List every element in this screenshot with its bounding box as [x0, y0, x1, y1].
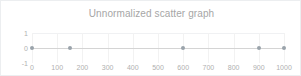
- x-tick-label: 200: [77, 64, 89, 72]
- y-tick-label: 1: [24, 30, 28, 37]
- scatter-point: [30, 46, 34, 50]
- x-axis-tick-labels: 01002003004005006007008009001000: [32, 64, 284, 75]
- x-tick-label: 1000: [276, 64, 292, 72]
- scatter-point: [257, 46, 261, 50]
- x-tick-label: 600: [177, 64, 189, 72]
- scatter-point: [181, 46, 185, 50]
- x-tick-label: 800: [228, 64, 240, 72]
- x-tick-label: 100: [51, 64, 63, 72]
- x-tick-label: 300: [102, 64, 114, 72]
- plot-area: [32, 33, 284, 63]
- y-tick-label: 0: [24, 45, 28, 52]
- scatter-point: [68, 46, 72, 50]
- chart-title: Unnormalized scatter graph: [1, 8, 301, 19]
- y-axis-tick-labels: 10-1: [13, 33, 28, 63]
- x-tick-label: 400: [127, 64, 139, 72]
- chart-card: Unnormalized scatter graph 10-1 01002003…: [0, 0, 301, 76]
- x-tick-label: 700: [203, 64, 215, 72]
- x-tick-label: 500: [152, 64, 164, 72]
- scatter-point: [282, 46, 286, 50]
- x-tick-label: 900: [253, 64, 265, 72]
- x-tick-label: 0: [30, 64, 34, 72]
- y-tick-label: -1: [22, 60, 28, 67]
